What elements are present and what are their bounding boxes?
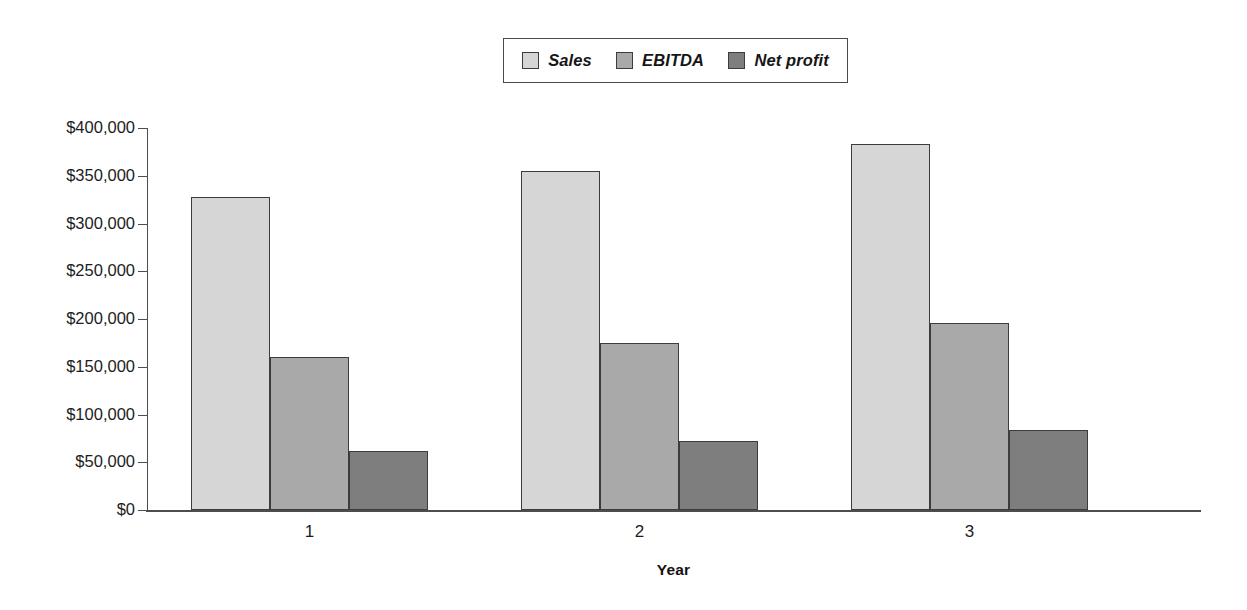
x-axis-tick-label-3: 3 [910,522,1030,542]
plot-area: $0$50,000$100,000$150,000$200,000$250,00… [147,128,1200,510]
y-axis-tick [138,462,147,463]
bar-ebitda-year-1 [270,357,349,510]
x-axis-tick-label-1: 1 [250,522,370,542]
bar-chart: Sales EBITDA Net profit $0$50,000$100,00… [0,0,1247,610]
y-axis-tick-label: $300,000 [43,214,135,233]
chart-legend: Sales EBITDA Net profit [503,38,848,83]
x-axis-tick-label-2: 2 [580,522,700,542]
bar-net-profit-year-1 [349,451,428,510]
x-axis-line [146,510,1201,512]
y-axis-tick [138,176,147,177]
legend-item-net-profit: Net profit [728,51,828,70]
y-axis-tick [138,510,147,511]
y-axis-tick-label: $400,000 [43,118,135,137]
bar-net-profit-year-3 [1009,430,1088,510]
legend-item-sales: Sales [522,51,592,70]
y-axis-tick-label: $150,000 [43,357,135,376]
bar-ebitda-year-2 [600,343,679,510]
legend-item-ebitda: EBITDA [616,51,704,70]
bar-sales-year-3 [851,144,930,510]
bar-sales-year-1 [191,197,270,510]
legend-swatch-net-profit-icon [728,52,745,69]
legend-swatch-sales-icon [522,52,539,69]
y-axis-tick [138,367,147,368]
y-axis-tick-label: $100,000 [43,405,135,424]
y-axis-tick [138,319,147,320]
y-axis-line [147,128,148,510]
bar-sales-year-2 [521,171,600,510]
y-axis-tick-label: $250,000 [43,261,135,280]
x-axis-title: Year [147,561,1200,579]
y-axis-tick-label: $0 [43,500,135,519]
legend-label-net-profit: Net profit [754,51,828,70]
y-axis-tick [138,224,147,225]
bar-ebitda-year-3 [930,323,1009,510]
y-axis-tick [138,271,147,272]
bar-net-profit-year-2 [679,441,758,510]
y-axis-tick [138,128,147,129]
legend-label-ebitda: EBITDA [642,51,704,70]
y-axis-tick-label: $350,000 [43,166,135,185]
y-axis-tick-label: $200,000 [43,309,135,328]
y-axis-tick [138,415,147,416]
legend-swatch-ebitda-icon [616,52,633,69]
y-axis-tick-label: $50,000 [43,452,135,471]
legend-label-sales: Sales [548,51,592,70]
